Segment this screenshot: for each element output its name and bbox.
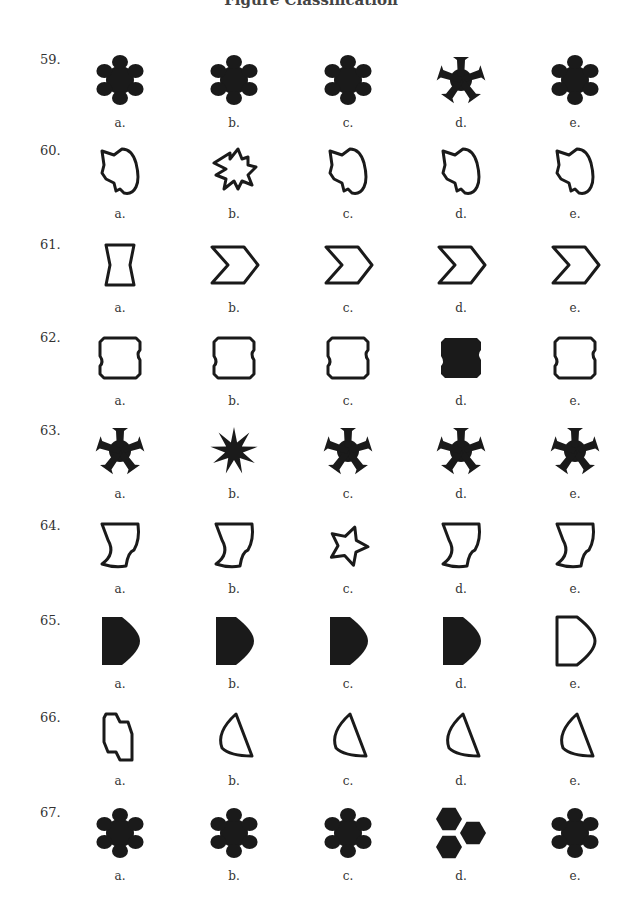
answer-option-c[interactable]: c. [308,143,388,235]
notched-rect-outline-icon [208,330,260,386]
option-label: d. [421,487,501,501]
flower-blob-6-filled-icon [322,52,374,108]
answer-option-e[interactable]: e. [535,423,615,515]
option-label: c. [308,301,388,315]
curved-triangle-outline-icon [322,710,374,766]
option-label: a. [80,774,160,788]
answer-option-b[interactable]: b. [194,805,274,897]
answer-option-b[interactable]: b. [194,613,274,705]
curved-quad-outline-icon [94,518,146,574]
chevron-outline-icon [549,237,601,293]
question-59: 59.a.b.c.d.e. [0,52,622,144]
page-header-cut: Figure Classification [0,0,622,9]
answer-option-d[interactable]: d. [421,613,501,705]
question-number: 67. [40,805,61,820]
answer-option-d[interactable]: d. [421,237,501,329]
answer-option-c[interactable]: c. [308,330,388,422]
notched-rect-outline-icon [94,330,146,386]
answer-option-c[interactable]: c. [308,518,388,610]
answer-option-c[interactable]: c. [308,613,388,705]
answer-option-a[interactable]: a. [80,423,160,515]
answer-option-e[interactable]: e. [535,805,615,897]
answer-option-e[interactable]: e. [535,710,615,802]
answer-option-e[interactable]: e. [535,143,615,235]
answer-option-a[interactable]: a. [80,710,160,802]
answer-option-a[interactable]: a. [80,613,160,705]
option-label: e. [535,774,615,788]
question-number: 62. [40,330,61,345]
answer-option-c[interactable]: c. [308,710,388,802]
answer-option-a[interactable]: a. [80,143,160,235]
option-label: d. [421,207,501,221]
answer-option-c[interactable]: c. [308,237,388,329]
answer-option-a[interactable]: a. [80,237,160,329]
answer-option-d[interactable]: d. [421,143,501,235]
option-label: d. [421,394,501,408]
flared-star-5-filled-icon [549,423,601,479]
option-label: d. [421,869,501,883]
answer-option-a[interactable]: a. [80,518,160,610]
option-label: b. [194,487,274,501]
option-label: e. [535,207,615,221]
d-shape-outline-icon [549,613,601,669]
answer-option-a[interactable]: a. [80,52,160,144]
answer-option-a[interactable]: a. [80,805,160,897]
option-label: c. [308,487,388,501]
curved-triangle-outline-icon [549,710,601,766]
answer-option-d[interactable]: d. [421,330,501,422]
option-label: e. [535,394,615,408]
d-shape-filled-icon [94,613,146,669]
option-label: e. [535,582,615,596]
answer-option-e[interactable]: e. [535,330,615,422]
answer-option-e[interactable]: e. [535,237,615,329]
answer-option-d[interactable]: d. [421,423,501,515]
answer-option-e[interactable]: e. [535,518,615,610]
answer-option-b[interactable]: b. [194,710,274,802]
option-label: c. [308,116,388,130]
answer-option-c[interactable]: c. [308,52,388,144]
answer-option-b[interactable]: b. [194,518,274,610]
option-label: a. [80,394,160,408]
curved-triangle-outline-icon [435,710,487,766]
answer-option-e[interactable]: e. [535,613,615,705]
option-label: e. [535,301,615,315]
question-number: 65. [40,613,61,628]
answer-option-c[interactable]: c. [308,805,388,897]
flared-star-5-filled-icon [435,52,487,108]
answer-option-b[interactable]: b. [194,330,274,422]
flower-blob-6-filled-icon [208,52,260,108]
answer-option-e[interactable]: e. [535,52,615,144]
answer-option-b[interactable]: b. [194,143,274,235]
answer-option-a[interactable]: a. [80,330,160,422]
question-number: 63. [40,423,61,438]
answer-option-d[interactable]: d. [421,52,501,144]
answer-option-d[interactable]: d. [421,710,501,802]
flower-blob-6-filled-icon [549,805,601,861]
answer-option-b[interactable]: b. [194,52,274,144]
flower-blob-6-filled-icon [322,805,374,861]
option-label: c. [308,869,388,883]
option-label: b. [194,869,274,883]
answer-option-b[interactable]: b. [194,237,274,329]
curved-quad-outline-icon [549,518,601,574]
option-label: a. [80,207,160,221]
flower-blob-6-filled-icon [94,805,146,861]
question-65: 65.a.b.c.d.e. [0,613,622,705]
notched-rect-outline-icon [549,330,601,386]
answer-option-d[interactable]: d. [421,518,501,610]
option-label: b. [194,116,274,130]
option-label: c. [308,394,388,408]
answer-option-c[interactable]: c. [308,423,388,515]
jagged-burst-outline-icon [208,143,260,199]
option-label: e. [535,487,615,501]
option-label: a. [80,869,160,883]
answer-option-d[interactable]: d. [421,805,501,897]
irregular-blob-outline-icon [549,143,601,199]
answer-option-b[interactable]: b. [194,423,274,515]
question-60: 60.a.b.c.d.e. [0,143,622,235]
question-number: 60. [40,143,61,158]
irregular-blob-outline-icon [94,143,146,199]
option-label: b. [194,394,274,408]
chevron-outline-icon [435,237,487,293]
option-label: d. [421,774,501,788]
